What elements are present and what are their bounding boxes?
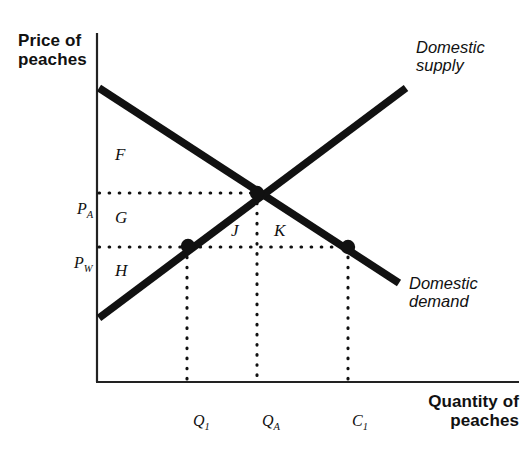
x-tick-qa-sub: A <box>274 421 280 432</box>
y-tick-pa-sub: A <box>87 209 93 220</box>
x-tick-qa-base: Q <box>262 412 274 429</box>
x-tick-c1-sub: 1 <box>363 421 368 432</box>
x-tick-label-qa: QA <box>246 394 280 451</box>
region-label-g: G <box>115 208 127 227</box>
y-tick-pa-base: P <box>77 200 87 217</box>
point-q1-on-supply <box>181 239 195 253</box>
domestic-supply-curve <box>99 88 406 318</box>
domestic-demand-curve <box>99 88 399 283</box>
x-tick-q1-sub: 1 <box>205 421 210 432</box>
region-label-j: J <box>231 221 239 240</box>
y-tick-pw-base: P <box>74 254 84 271</box>
x-axis-title: Quantity of peaches <box>401 392 519 430</box>
x-tick-label-q1: Q1 <box>177 394 210 451</box>
region-label-k: K <box>274 221 285 240</box>
y-axis-title: Price of peaches <box>18 31 87 69</box>
domestic-demand-label: Domestic demand <box>409 274 478 311</box>
y-tick-label-pw: PW <box>58 236 93 293</box>
region-label-h: H <box>115 261 127 280</box>
supply-demand-diagram: Price of peaches Quantity of peaches Dom… <box>0 0 526 459</box>
y-tick-label-pa: PA <box>61 182 93 239</box>
x-tick-c1-base: C <box>352 412 363 429</box>
point-c1-on-demand <box>341 240 355 254</box>
domestic-supply-label: Domestic supply <box>416 38 485 75</box>
region-label-f: F <box>115 145 125 164</box>
x-tick-label-c1: C1 <box>336 394 368 451</box>
x-tick-q1-base: Q <box>193 412 205 429</box>
y-tick-pw-sub: W <box>84 263 93 274</box>
point-autarky-equilibrium <box>250 186 264 200</box>
